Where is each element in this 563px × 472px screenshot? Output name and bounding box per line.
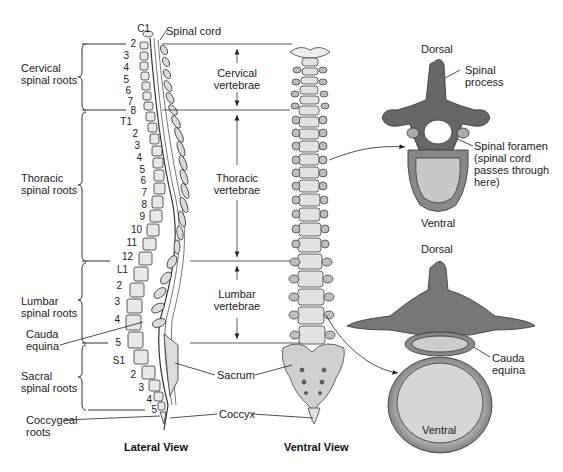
- spinal-cord-label: Spinal cord: [166, 25, 221, 37]
- cauda-equina-lateral-label: Cauda equina: [26, 328, 59, 352]
- sacral-spinal-roots-label: Sacral spinal roots: [21, 370, 77, 394]
- lumbar-ventral-label: Ventral: [422, 424, 456, 436]
- coccyx-label: Coccyx: [219, 408, 255, 420]
- cervical-vertebrae-label: Cervical vertebrae: [206, 67, 268, 91]
- lateral-view-title: Lateral View: [124, 441, 188, 453]
- thoracic-ventral-label: Ventral: [421, 217, 455, 229]
- ventral-spine: [282, 47, 344, 424]
- thoracic-vertebrae-label: Thoracic vertebrae: [206, 172, 268, 196]
- thoracic-dorsal-label: Dorsal: [421, 43, 453, 55]
- cauda-equina-cross-section-label: Cauda equina: [492, 352, 525, 376]
- lumbar-spinal-roots-label: Lumbar spinal roots: [21, 295, 77, 319]
- lumbar-vertebrae-label: Lumbar vertebrae: [206, 288, 268, 312]
- lumbar-dorsal-label: Dorsal: [421, 243, 453, 255]
- thoracic-spinal-roots-label: Thoracic spinal roots: [21, 172, 77, 196]
- spinal-process-label: Spinal process: [465, 64, 504, 88]
- ventral-view-title: Ventral View: [284, 441, 349, 453]
- coccygeal-roots-label: Coccygeal roots: [26, 414, 77, 438]
- spinal-foramen-label: Spinal foramen (spinal cord passes throu…: [474, 140, 549, 188]
- cervical-spinal-roots-label: Cervical spinal roots: [21, 62, 77, 86]
- sacrum-label: Sacrum: [217, 369, 255, 381]
